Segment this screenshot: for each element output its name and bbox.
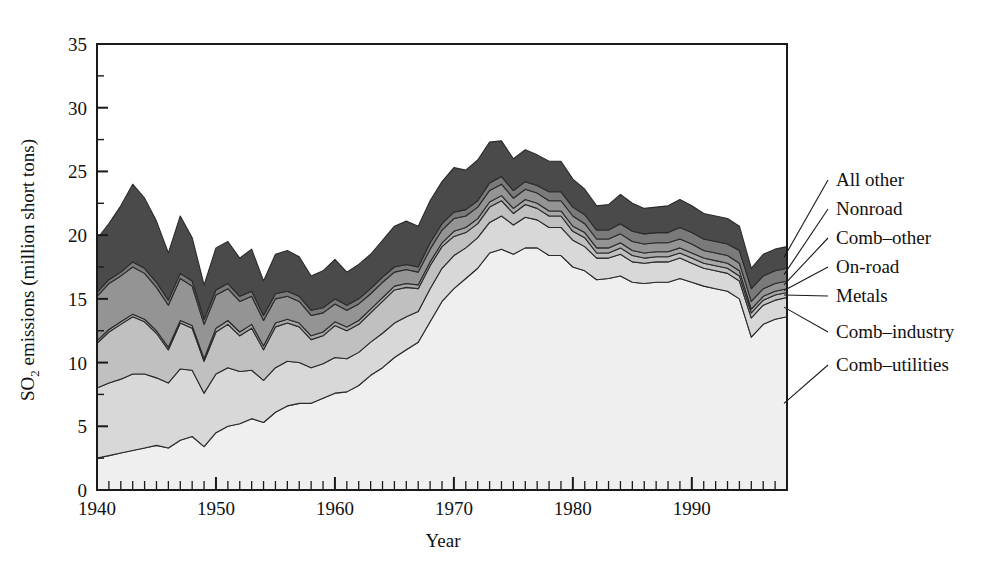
y-tick-label: 10 xyxy=(68,353,87,374)
x-tick-label: 1950 xyxy=(197,498,235,519)
y-tick-label: 35 xyxy=(68,34,87,55)
x-tick-label: 1990 xyxy=(673,498,711,519)
x-tick-label: 1980 xyxy=(554,498,592,519)
x-tick-label: 1970 xyxy=(435,498,473,519)
x-tick-label: 1940 xyxy=(78,498,116,519)
y-tick-label: 30 xyxy=(68,98,87,119)
y-title-pre: SO xyxy=(17,377,38,401)
legend-leader-line xyxy=(784,365,828,403)
legend-label-comb-other: Comb–other xyxy=(836,227,932,248)
legend-label-comb-utilities: Comb–utilities xyxy=(836,354,949,375)
y-title-post: emissions (million short tons) xyxy=(17,139,39,370)
legend-label-comb-industry: Comb–industry xyxy=(836,321,955,342)
legend-label-metals: Metals xyxy=(836,285,888,306)
y-tick-label: 25 xyxy=(68,161,87,182)
x-axis-title: Year xyxy=(425,530,461,551)
legend-label-nonroad: Nonroad xyxy=(836,198,903,219)
y-axis-title: SO2 emissions (million short tons) xyxy=(17,139,42,401)
legend-leader-line xyxy=(784,267,828,291)
chart-figure: 05101520253035 194019501960197019801990 … xyxy=(0,0,997,576)
legend-label-all-other: All other xyxy=(836,169,905,190)
chart-legend: All otherNonroadComb–otherOn-roadMetalsC… xyxy=(784,169,955,403)
legend-leader-line xyxy=(784,307,828,332)
y-tick-label: 5 xyxy=(78,416,88,437)
stacked-area-bands xyxy=(97,141,787,490)
so2-emissions-stacked-area-chart: 05101520253035 194019501960197019801990 … xyxy=(0,0,997,576)
y-tick-label: 20 xyxy=(68,225,87,246)
legend-label-on-road: On-road xyxy=(836,256,900,277)
y-tick-label: 15 xyxy=(68,289,87,310)
x-tick-label: 1960 xyxy=(316,498,354,519)
legend-leader-line xyxy=(784,295,828,296)
